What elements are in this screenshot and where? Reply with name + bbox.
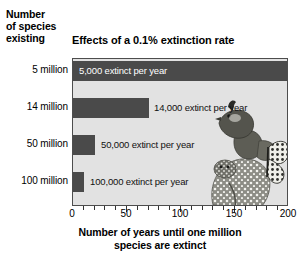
x-axis-title-line-1: Number of years until one million xyxy=(53,226,267,239)
y-axis-title-line-3: existing xyxy=(6,32,70,44)
chart-title: Effects of a 0.1% extinction rate xyxy=(72,34,234,46)
category-label-3: 100 million xyxy=(0,171,68,191)
y-axis-title-line-1: Number xyxy=(6,8,70,20)
extinction-rate-figure: Number of species existing Effects of a … xyxy=(0,0,306,258)
x-axis-title-line-2: species are extinct xyxy=(53,239,267,252)
data-label-0: 5,000 extinct per year xyxy=(79,61,167,81)
bar-2 xyxy=(73,135,95,155)
category-label-0: 5 million xyxy=(0,60,68,80)
bar-3 xyxy=(73,172,84,192)
y-axis-title-line-2: of species xyxy=(6,20,70,32)
bar-1 xyxy=(73,98,149,118)
data-label-1: 14,000 extinct per year xyxy=(154,98,247,118)
x-tick-label-0: 0 xyxy=(52,208,92,219)
x-axis xyxy=(72,206,288,207)
x-tick-label-3: 150 xyxy=(214,208,254,219)
x-tick-label-2: 100 xyxy=(160,208,200,219)
x-tick-label-1: 50 xyxy=(106,208,146,219)
x-axis-title: Number of years until one million specie… xyxy=(53,226,267,251)
plot-area: 5,000 extinct per year 14,000 extinct pe… xyxy=(72,58,288,206)
y-axis-title: Number of species existing xyxy=(6,8,70,45)
data-label-2: 50,000 extinct per year xyxy=(101,135,194,155)
category-label-2: 50 million xyxy=(0,134,68,154)
category-label-1: 14 million xyxy=(0,97,68,117)
x-tick-label-4: 200 xyxy=(268,208,306,219)
data-label-3: 100,000 extinct per year xyxy=(90,172,188,192)
